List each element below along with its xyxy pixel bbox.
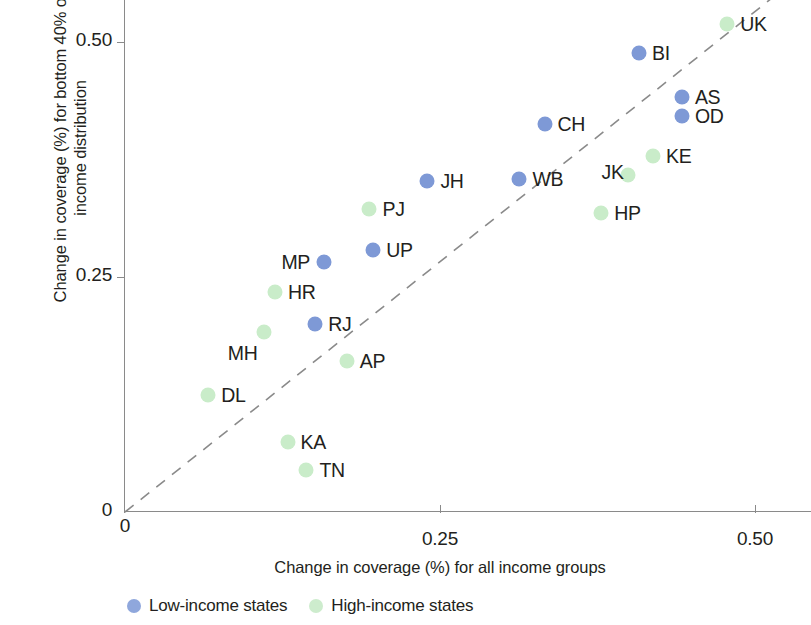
x-tick-label: 0.25 <box>395 528 485 550</box>
data-point-label-ch: CH <box>558 112 586 135</box>
y-tick-mark <box>117 277 125 278</box>
data-point-uk[interactable] <box>720 17 735 32</box>
data-point-mh[interactable] <box>256 325 271 340</box>
data-point-label-uk: UK <box>740 13 767 36</box>
data-point-label-hp: HP <box>614 202 641 225</box>
y-axis-line <box>124 0 125 513</box>
data-point-label-ap: AP <box>360 349 385 372</box>
data-point-label-tn: TN <box>319 458 344 481</box>
data-point-pj[interactable] <box>362 202 377 217</box>
data-point-mp[interactable] <box>317 254 332 269</box>
data-point-label-mp: MP <box>281 250 310 273</box>
data-point-label-dl: DL <box>221 384 245 407</box>
data-point-bi[interactable] <box>632 46 647 61</box>
data-point-label-ka: KA <box>301 431 326 454</box>
y-tick-mark <box>117 42 125 43</box>
data-point-ka[interactable] <box>280 435 295 450</box>
data-point-dl[interactable] <box>201 388 216 403</box>
identity-reference-line <box>0 0 811 545</box>
data-point-label-ke: KE <box>666 144 691 167</box>
x-axis-title: Change in coverage (%) for all income gr… <box>125 558 755 577</box>
data-point-wb[interactable] <box>512 172 527 187</box>
legend-swatch-high-icon <box>309 599 323 613</box>
data-point-label-pj: PJ <box>382 198 404 221</box>
y-tick-label: 0.25 <box>32 264 112 286</box>
data-point-jh[interactable] <box>420 174 435 189</box>
x-tick-mark <box>755 505 756 513</box>
plot-area: 00.250.5000.250.50 BIASODCHJHWBUPMPRJUKK… <box>0 0 811 545</box>
data-point-as[interactable] <box>674 90 689 105</box>
data-point-up[interactable] <box>366 242 381 257</box>
x-axis-line <box>124 511 811 512</box>
data-point-hr[interactable] <box>267 285 282 300</box>
data-point-label-mh: MH <box>228 342 258 365</box>
data-point-label-jk: JK <box>602 161 624 184</box>
data-point-ch[interactable] <box>537 116 552 131</box>
legend-item-high[interactable]: High-income states <box>309 596 473 616</box>
data-point-tn[interactable] <box>299 462 314 477</box>
x-tick-mark <box>440 505 441 513</box>
data-point-ke[interactable] <box>645 148 660 163</box>
chart-legend: Low-income statesHigh-income states <box>127 596 473 616</box>
data-point-hp[interactable] <box>594 206 609 221</box>
y-tick-label: 0.50 <box>32 29 112 51</box>
x-tick-label: 0.50 <box>710 528 800 550</box>
legend-label-low: Low-income states <box>149 596 287 616</box>
data-point-label-rj: RJ <box>328 313 351 336</box>
data-point-label-od: OD <box>695 105 724 128</box>
data-point-label-bi: BI <box>652 42 670 65</box>
data-point-rj[interactable] <box>308 317 323 332</box>
scatter-chart-figure: Change in coverage (%) for bottom 40% of… <box>0 0 811 625</box>
legend-swatch-low-icon <box>127 599 141 613</box>
data-point-label-jh: JH <box>440 170 463 193</box>
legend-item-low[interactable]: Low-income states <box>127 596 287 616</box>
data-point-label-up: UP <box>386 238 413 261</box>
data-point-label-wb: WB <box>532 168 563 191</box>
data-point-od[interactable] <box>674 109 689 124</box>
data-point-label-hr: HR <box>288 281 316 304</box>
x-tick-label: 0 <box>80 515 170 537</box>
data-point-ap[interactable] <box>339 353 354 368</box>
legend-label-high: High-income states <box>331 596 473 616</box>
